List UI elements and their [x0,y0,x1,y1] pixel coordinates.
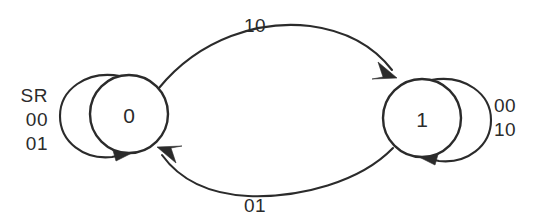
state-node-0[interactable]: 0 [90,75,168,153]
self-loop-state-1-label-line-2: 10 [494,119,516,140]
self-loop-state-0-label-line-2: 00 [26,109,48,130]
transition-0-to-1[interactable] [159,25,397,88]
transition-1-to-0[interactable] [157,146,393,196]
self-loop-state-1-label-line-1: 00 [494,95,516,116]
state-node-0-label: 0 [123,104,135,127]
transition-1-to-0-arrowhead [157,146,182,163]
state-node-1-label: 1 [416,108,428,131]
self-loop-state-0-label: SR 00 01 [21,85,48,154]
transition-1-to-0-path [162,148,393,196]
transition-0-to-1-arrowhead [372,62,397,79]
self-loop-state-0-label-line-1: SR [21,85,48,106]
state-diagram-canvas: 0 1 10 01 SR 00 01 00 10 [0,0,538,222]
self-loop-state-0-label-line-3: 01 [26,133,48,154]
transition-0-to-1-label: 10 [244,15,266,36]
self-loop-state-1-label: 00 10 [494,95,516,140]
state-node-1[interactable]: 1 [383,79,461,157]
transition-1-to-0-label: 01 [244,195,266,216]
state-diagram-svg: 0 1 10 01 SR 00 01 00 10 [0,0,538,222]
transition-0-to-1-path [159,25,392,88]
